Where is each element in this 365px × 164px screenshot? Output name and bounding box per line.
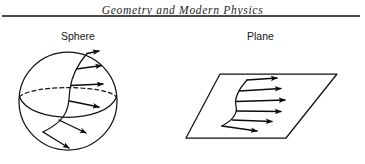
plane-figure xyxy=(186,74,337,138)
sphere-arrow-1 xyxy=(87,51,99,54)
plane-arrow-1 xyxy=(247,78,277,80)
plane-arrow-6 xyxy=(222,126,257,131)
page-canvas: Geometry and Modern Physics Sphere Plane xyxy=(0,0,365,164)
plane-arrow-2 xyxy=(240,89,282,92)
sphere-figure xyxy=(19,51,117,150)
sphere-arrow-4 xyxy=(70,101,100,107)
sphere-outline xyxy=(19,52,117,150)
sphere-arrow-group xyxy=(43,51,103,148)
sphere-arrow-2 xyxy=(77,66,102,70)
plane-arrow-3 xyxy=(236,100,286,102)
sphere-arrow-5 xyxy=(59,120,86,133)
figure-area xyxy=(0,40,365,164)
plane-arrow-group xyxy=(222,78,285,131)
plane-outline xyxy=(186,74,337,138)
sphere-surface-curve xyxy=(43,54,87,133)
sphere-equator-back xyxy=(20,88,117,97)
header-rule xyxy=(2,15,360,17)
plane-arrow-4 xyxy=(237,111,282,112)
running-head: Geometry and Modern Physics xyxy=(0,0,365,15)
plane-curve xyxy=(222,80,247,126)
sphere-arrow-3 xyxy=(71,84,104,86)
plane-arrow-5 xyxy=(232,120,272,122)
